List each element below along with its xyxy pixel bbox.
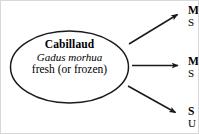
branch-label-bottom-head: S	[188, 105, 196, 117]
branch-label-middle-sub: S	[188, 67, 199, 80]
branch-arrow-down	[128, 86, 176, 113]
diagram-canvas: Cabillaud Gadus morhua fresh (or frozen)…	[0, 0, 199, 134]
branch-label-middle: M S	[188, 55, 199, 80]
branch-label-top: M S	[188, 4, 199, 29]
branch-arrow-up	[129, 15, 178, 45]
branch-label-top-head: M	[188, 4, 199, 16]
node-label-group: Cabillaud Gadus morhua fresh (or frozen)	[10, 39, 129, 75]
branch-label-top-sub: S	[188, 16, 199, 29]
node-scientific-name: Gadus morhua	[10, 52, 129, 64]
branch-label-bottom-sub: U	[188, 117, 196, 130]
node-name: Cabillaud	[10, 39, 129, 52]
branch-label-bottom: S U	[188, 105, 196, 130]
branch-label-middle-head: M	[188, 55, 199, 67]
node-state: fresh (or frozen)	[10, 64, 129, 76]
